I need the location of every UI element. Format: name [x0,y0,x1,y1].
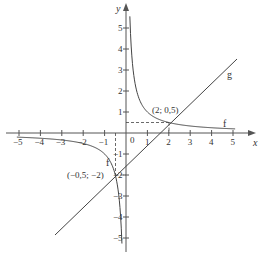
y-axis-arrow-icon [123,3,129,11]
y-tick-label: 5 [118,23,123,33]
origin-label: 0 [130,135,135,145]
function-graph: −5−4−3−2−112345 54321−1−2−3−4−5 x y 0 f … [0,0,263,258]
line-g-label: g [227,69,232,80]
intersection-label-b: (−0,5; −2) [67,170,104,180]
y-tick-label: −4 [113,212,123,222]
x-axis-label: x [252,137,258,148]
curve-f-right-label: f [223,118,227,129]
x-tick-label: −5 [13,137,23,147]
x-tick-label: −3 [56,137,66,147]
y-axis-label: y [115,3,121,14]
x-tick-label: 5 [231,137,236,147]
curve-f-left-branch [17,137,122,243]
x-axis-arrow-icon [248,130,256,136]
y-tick-label: 4 [118,44,123,54]
y-tick-label: 2 [118,86,123,96]
x-tick-label: 2 [166,137,171,147]
curve-f-left-label: f [106,157,110,168]
y-tick-label: −1 [113,149,123,159]
dashed-guides [116,123,170,176]
x-tick-label: 3 [188,137,193,147]
y-tick-label: 1 [118,107,123,117]
x-tick-label: 4 [209,137,214,147]
line-g [55,59,237,235]
axes [6,8,249,252]
y-tick-label: 3 [118,65,123,75]
intersection-label-a: (2; 0,5) [152,105,179,115]
x-tick-label: −1 [99,137,109,147]
